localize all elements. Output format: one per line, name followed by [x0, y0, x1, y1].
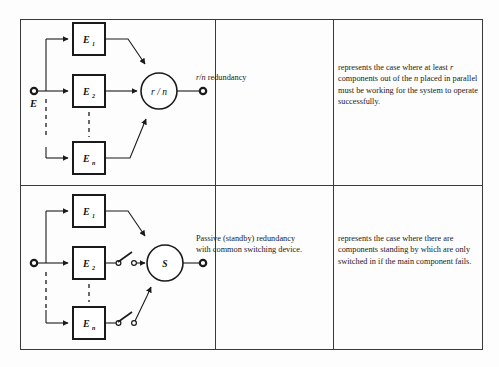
block-e1: E 1 — [73, 23, 105, 55]
rn-node-label: r / n — [151, 87, 167, 97]
block-en: E n — [73, 142, 105, 174]
block-e2-subscript: 2 — [91, 265, 95, 271]
input-terminal-label: E — [29, 98, 37, 109]
block-e2-label: E — [82, 258, 90, 269]
switch-en-blade — [118, 312, 132, 322]
out-line-e1 — [105, 39, 145, 64]
block-e2: E 2 — [73, 75, 105, 107]
passive-standby-svg: E 1 E 2 E n — [20, 184, 214, 350]
row-2-name-text: Passive (standby) redundancy with common… — [196, 234, 302, 254]
input-terminal-node — [31, 88, 37, 94]
block-e2-label: E — [82, 86, 90, 97]
switch-e2[interactable] — [116, 252, 136, 265]
input-terminal-node — [31, 260, 37, 266]
block-en: E n — [73, 307, 105, 339]
block-e1: E 1 — [73, 195, 105, 227]
diagram-rn-redundancy: E E 1 E 2 — [20, 19, 214, 184]
block-e1-label: E — [82, 206, 90, 217]
block-e1-subscript: 1 — [92, 213, 95, 219]
block-e1-label: E — [82, 34, 90, 45]
figure-canvas: E E 1 E 2 — [0, 0, 499, 367]
row-2-description-cell: represents the case where there are comp… — [338, 233, 480, 267]
row-1-description-text: represents the case where at least r com… — [338, 63, 478, 106]
rn-redundancy-svg: E E 1 E 2 — [20, 19, 214, 184]
out-line-e1 — [105, 211, 145, 236]
output-terminal-node — [200, 260, 206, 266]
row-1-name-text: r/n redundancy — [196, 73, 246, 82]
block-e2-subscript: 2 — [91, 93, 95, 99]
out-line-en-to-s — [135, 287, 151, 321]
block-en-label: E — [82, 153, 90, 164]
row-2-name-cell: Passive (standby) redundancy with common… — [196, 233, 308, 256]
switch-e2-blade — [118, 252, 132, 262]
row-1-description-cell: represents the case where at least r com… — [338, 62, 478, 108]
diagram-passive-standby: E 1 E 2 E n — [20, 184, 214, 350]
switch-en[interactable] — [116, 312, 136, 325]
block-e1-subscript: 1 — [92, 41, 95, 47]
row-2-description-text: represents the case where there are comp… — [338, 234, 471, 266]
block-e2: E 2 — [73, 247, 105, 279]
rn-node: r / n — [141, 73, 177, 109]
s-node: S — [147, 245, 183, 281]
output-terminal-node — [200, 88, 206, 94]
out-line-en — [105, 119, 146, 158]
block-en-label: E — [82, 318, 90, 329]
s-node-label: S — [162, 259, 167, 269]
row-1-name-cell: r/n redundancy — [196, 72, 308, 83]
